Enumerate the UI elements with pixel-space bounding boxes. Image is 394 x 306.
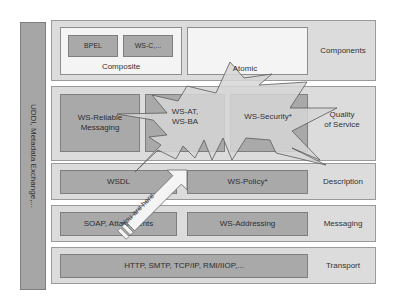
- arrow-shape: [121, 160, 197, 236]
- you-are-here-arrow: [0, 0, 394, 306]
